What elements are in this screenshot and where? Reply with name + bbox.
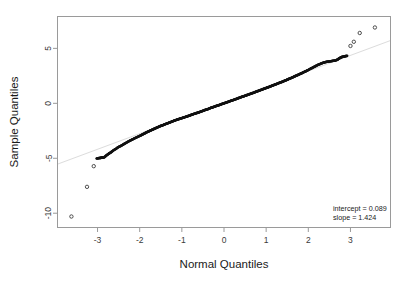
annotation-intercept: intercept = 0.089 (333, 204, 387, 213)
y-tick-label: 5 (44, 46, 54, 51)
y-tick-label: -10 (44, 207, 54, 220)
data-point (346, 55, 349, 58)
x-tick-label: 2 (306, 235, 311, 245)
y-tick-label: 0 (44, 101, 54, 106)
qq-plot-svg: -3-2-10123 50-5-10 Normal Quantiles Samp… (0, 0, 415, 282)
x-tick-label: -2 (136, 235, 144, 245)
y-tick-label: -5 (44, 154, 54, 162)
x-tick-label: -1 (178, 235, 186, 245)
x-tick-label: 0 (222, 235, 227, 245)
qq-plot-figure: -3-2-10123 50-5-10 Normal Quantiles Samp… (0, 0, 415, 282)
x-axis-title: Normal Quantiles (180, 258, 269, 270)
x-tick-label: 1 (264, 235, 269, 245)
annotation-slope: slope = 1.424 (333, 213, 376, 222)
x-tick-label: 3 (348, 235, 353, 245)
x-tick-label: -3 (94, 235, 102, 245)
y-axis-title: Sample Quantiles (8, 76, 20, 167)
